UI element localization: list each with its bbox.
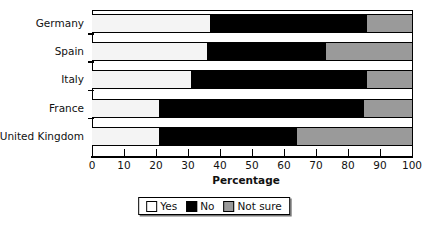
legend-item-yes[interactable]: Yes [146,200,177,212]
x-tick-mark [252,149,253,156]
x-tick-mark [92,149,93,156]
bar-segment-yes [92,128,159,145]
bar-segment-yes [92,100,159,117]
bar-segment-no [207,43,325,60]
bar-segment-notsure [326,43,412,60]
category-tick-stub [88,33,94,35]
x-tick-label-80: 80 [333,159,363,171]
x-tick-mark [124,149,125,156]
bar-segment-no [191,71,367,88]
x-axis-title: Percentage [0,174,428,186]
bar-segment-no [159,128,297,145]
x-tick-mark [156,149,157,156]
x-tick-mark [284,149,285,156]
y-axis-label-italy: Italy [61,74,84,85]
category-tick-stub [88,90,94,92]
bar-segment-yes [92,71,191,88]
x-axis-line [91,156,413,158]
x-tick-mark [188,149,189,156]
legend-label: Yes [160,200,177,212]
bar-spain [92,42,412,61]
y-axis-label-france: France [49,103,84,114]
x-tick-label-60: 60 [269,159,299,171]
x-tick-label-0: 0 [77,159,107,171]
bar-germany [92,14,412,33]
x-tick-label-50: 50 [237,159,267,171]
x-tick-mark [316,149,317,156]
legend-label: Not sure [237,200,281,212]
bar-united-kingdom [92,127,412,146]
bar-segment-notsure [364,100,412,117]
legend-label: No [200,200,214,212]
x-tick-label-20: 20 [141,159,171,171]
x-tick-label-40: 40 [205,159,235,171]
bar-segment-yes [92,15,210,32]
legend-swatch-notsure-icon [223,201,234,212]
x-tick-label-70: 70 [301,159,331,171]
x-tick-mark [412,149,413,156]
bar-italy [92,70,412,89]
y-axis-label-spain: Spain [55,46,84,57]
x-tick-mark [220,149,221,156]
plot-top-border [92,10,412,11]
y-axis-label-germany: Germany [36,18,84,29]
legend-item-no[interactable]: No [186,200,214,212]
bar-segment-no [210,15,367,32]
y-axis-label-united-kingdom: United Kingdom [0,131,84,142]
category-tick-stub [88,118,94,120]
legend-swatch-yes-icon [146,201,157,212]
legend[interactable]: YesNoNot sure [138,197,290,215]
bar-segment-notsure [367,15,412,32]
x-tick-label-100: 100 [397,159,427,171]
bar-segment-yes [92,43,207,60]
x-tick-label-90: 90 [365,159,395,171]
x-tick-mark [348,149,349,156]
x-axis-title-text: Percentage [212,174,280,186]
x-tick-mark [380,149,381,156]
stacked-bar-chart: GermanySpainItalyFranceUnited Kingdom 01… [0,0,428,225]
bar-france [92,99,412,118]
y-axis-category-labels: GermanySpainItalyFranceUnited Kingdom [0,0,88,158]
x-tick-label-10: 10 [109,159,139,171]
legend-item-notsure[interactable]: Not sure [223,200,281,212]
category-tick-stub [88,61,94,63]
bar-segment-notsure [367,71,412,88]
x-tick-label-30: 30 [173,159,203,171]
bar-segment-notsure [297,128,412,145]
legend-swatch-no-icon [186,201,197,212]
bar-segment-no [159,100,364,117]
